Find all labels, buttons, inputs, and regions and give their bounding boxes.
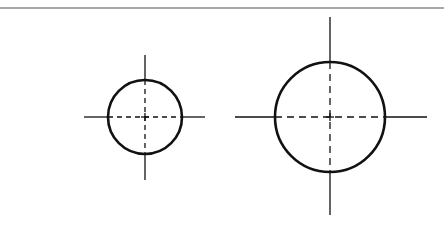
large-circle xyxy=(235,17,427,215)
drawing-canvas xyxy=(0,0,444,230)
small-circle xyxy=(84,55,205,180)
